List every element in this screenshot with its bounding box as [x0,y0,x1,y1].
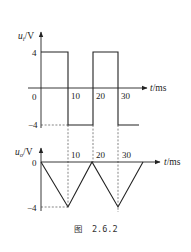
ui-y-tick-neg4: −4 [28,120,38,130]
uo-x-tick-30: 30 [122,150,132,160]
ui-x-tick-10: 10 [71,91,81,101]
uo-x-tick-10: 10 [71,150,81,160]
ui-y-label: ui/V [18,31,34,42]
input-waveform-plot: ui/V t/ms 4 0 −4 10 20 30 [18,31,167,130]
uo-y-label: uo/V [15,147,33,158]
ui-x-label: t/ms [150,83,167,93]
uo-triangle-wave [41,162,143,207]
uo-x-tick-20: 20 [96,150,106,160]
waveform-figure: ui/V t/ms 4 0 −4 10 20 30 uo/V t/ms 0 −4… [0,0,191,252]
output-waveform-plot: uo/V t/ms 0 −4 10 20 30 [15,147,181,213]
figure-caption: 图2.6.2 [74,224,118,234]
uo-x-label: t/ms [164,157,181,167]
ui-x-tick-30: 30 [121,91,131,101]
ui-x-tick-20: 20 [96,91,106,101]
ui-y-tick-4: 4 [32,48,37,58]
ui-y-tick-0: 0 [32,92,37,102]
uo-y-tick-neg4: −4 [27,203,37,213]
ui-square-wave [41,52,139,125]
uo-y-tick-0: 0 [32,158,37,168]
